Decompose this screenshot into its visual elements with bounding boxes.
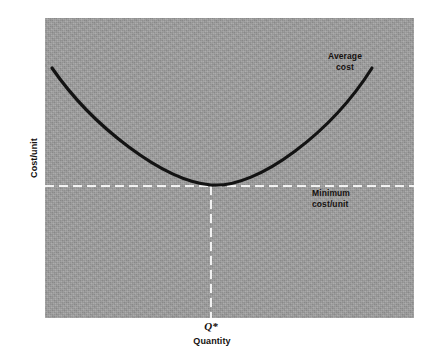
plot-area: Average cost Minimum cost/unit [45, 18, 414, 318]
cost-curve-figure: Average cost Minimum cost/unit Cost/unit… [0, 0, 430, 356]
minimum-cost-annotation: Minimum cost/unit [312, 188, 402, 209]
y-axis-title: Cost/unit [29, 118, 39, 198]
x-axis-title: Quantity [172, 336, 252, 346]
average-cost-annotation: Average cost [313, 51, 377, 72]
q-star-tick-label: Q* [181, 320, 241, 332]
average-cost-curve [52, 68, 372, 185]
